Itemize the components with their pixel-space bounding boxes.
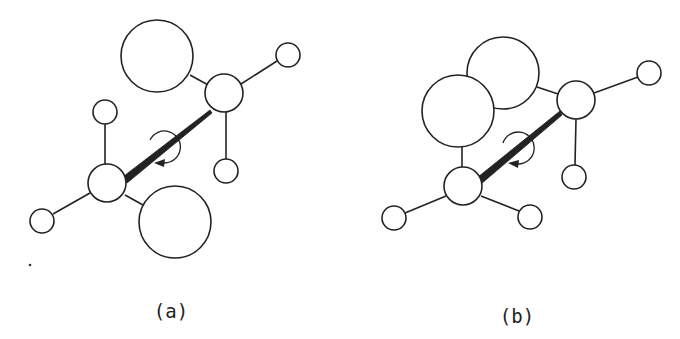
panel-b — [382, 37, 661, 230]
bond — [241, 61, 277, 84]
bond — [537, 87, 558, 94]
panel-b-label: (b) — [500, 305, 534, 327]
bond — [405, 196, 446, 213]
hydrogen-atom — [518, 205, 542, 229]
hydrogen-atom — [214, 159, 238, 183]
hydrogen-atom — [637, 61, 661, 85]
wedge-bond — [124, 110, 212, 183]
bond — [481, 196, 519, 211]
speck — [29, 264, 32, 267]
carbon-atom — [88, 164, 126, 202]
bond — [594, 77, 638, 93]
hydrogen-atom — [562, 165, 586, 189]
hydrogen-atom — [382, 206, 406, 230]
panel-a — [30, 20, 300, 258]
large-substituent-atom — [121, 20, 193, 92]
carbon-atom — [205, 74, 243, 112]
carbon-atom — [557, 81, 595, 119]
bond — [125, 195, 143, 205]
hydrogen-atom — [276, 43, 300, 67]
conformation-figure: (a) (b) — [0, 0, 680, 339]
large-substituent-atom — [422, 75, 494, 147]
arrowhead-icon — [508, 160, 519, 168]
hydrogen-atom — [93, 100, 117, 124]
panel-a-label: (a) — [154, 300, 188, 322]
arrowhead-icon — [154, 159, 165, 167]
bond — [53, 193, 90, 214]
bond — [575, 119, 576, 165]
hydrogen-atom — [30, 209, 54, 233]
carbon-atom — [444, 167, 482, 205]
large-substituent-atom — [139, 186, 211, 258]
